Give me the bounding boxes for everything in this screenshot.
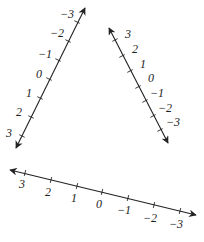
number-line-left: 3210−1−2−3 <box>5 7 85 148</box>
tick-label: −1 <box>38 47 52 61</box>
tick-label: −3 <box>166 115 180 129</box>
tick-label: 1 <box>71 191 77 205</box>
number-lines-diagram: 3210−1−2−3 3210−1−2−3 3210−1−2−3 <box>0 0 204 242</box>
tick-label: 0 <box>96 197 102 211</box>
tick-label: −1 <box>150 86 164 100</box>
tick-label: −3 <box>60 7 74 21</box>
tick-label: 0 <box>36 67 42 81</box>
number-line-right: 3210−1−2−3 <box>109 27 180 143</box>
tick-label: −2 <box>158 101 172 115</box>
tick-label: 2 <box>45 185 51 199</box>
tick-label: −3 <box>169 217 183 231</box>
tick-label: 1 <box>140 57 146 71</box>
tick-label: 3 <box>124 27 131 41</box>
tick-label: −1 <box>117 203 131 217</box>
tick-label: 1 <box>26 86 32 100</box>
tick-label: 3 <box>5 126 12 140</box>
tick-label: 0 <box>148 71 154 85</box>
tick-label: 2 <box>132 42 138 56</box>
tick-label: −2 <box>50 26 64 40</box>
tick-label: −2 <box>143 211 157 225</box>
axis-line <box>10 170 196 215</box>
tick-label: 3 <box>18 177 25 191</box>
tick-label: 2 <box>16 105 22 119</box>
number-line-bottom: 3210−1−2−3 <box>10 170 196 231</box>
